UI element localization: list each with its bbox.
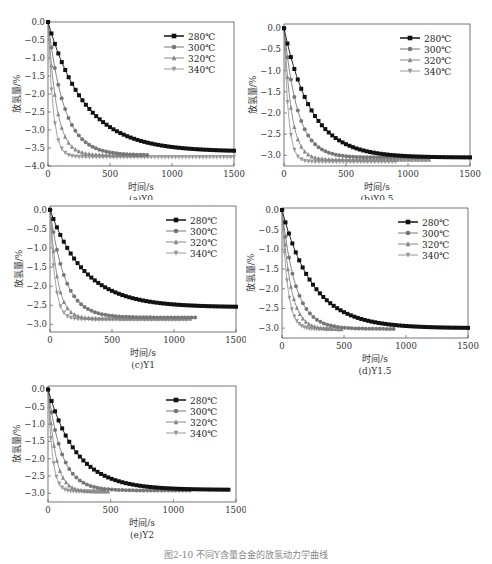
y-tick-label: 0.0 bbox=[31, 17, 45, 27]
legend-label: 300℃ bbox=[190, 407, 217, 417]
legend-label: 300℃ bbox=[422, 229, 449, 239]
x-tick-label: 500 bbox=[103, 505, 119, 515]
x-tick-label: 1000 bbox=[163, 505, 185, 515]
y-tick-label: −1.0 bbox=[26, 243, 47, 253]
y-tick-label: −2.0 bbox=[258, 284, 279, 294]
y-tick-label: −2.5 bbox=[258, 303, 279, 313]
y-tick-label: −2.5 bbox=[24, 107, 45, 117]
x-axis-label: 时间/s bbox=[130, 347, 156, 358]
x-tick-label: 1000 bbox=[161, 169, 183, 179]
y-tick-label: −1.5 bbox=[258, 264, 279, 274]
x-tick-label: 1500 bbox=[225, 335, 246, 345]
y-tick-label: −4.0 bbox=[24, 161, 45, 171]
panel-title: (d)Y1.5 bbox=[358, 366, 391, 376]
legend: 280℃300℃320℃340℃ bbox=[164, 32, 215, 75]
legend-label: 320℃ bbox=[422, 240, 449, 250]
x-tick-label: 1000 bbox=[397, 169, 419, 179]
x-tick-label: 0 bbox=[47, 335, 52, 345]
chart-panel-a: 0.0−0.5−1.0−1.5−2.0−2.5−3.0−3.5−4.005001… bbox=[0, 0, 246, 200]
y-tick-label: −1.5 bbox=[260, 87, 281, 97]
y-tick-label: −3.0 bbox=[260, 150, 281, 160]
y-tick-label: −2.5 bbox=[260, 129, 281, 139]
series-300℃ bbox=[280, 208, 396, 331]
legend: 280℃300℃320℃340℃ bbox=[400, 34, 451, 77]
chart-panel-b: 0.0−0.5−1.0−1.5−2.0−2.5−3.0050010001500时… bbox=[246, 0, 492, 200]
y-tick-label: −3.0 bbox=[258, 323, 279, 333]
y-tick-label: −0.5 bbox=[260, 44, 281, 54]
y-tick-label: −0.5 bbox=[24, 35, 45, 45]
legend-label: 300℃ bbox=[188, 43, 215, 53]
x-tick-label: 500 bbox=[336, 341, 352, 351]
x-tick-label: 500 bbox=[338, 169, 354, 179]
legend-label: 280℃ bbox=[190, 396, 217, 406]
series-320℃ bbox=[280, 207, 344, 331]
series-320℃ bbox=[282, 26, 431, 162]
legend-label: 280℃ bbox=[188, 32, 215, 42]
x-tick-label: 1000 bbox=[395, 341, 417, 351]
x-axis-label: 时间/s bbox=[128, 181, 154, 192]
y-tick-label: 0.0 bbox=[33, 205, 47, 215]
y-tick-label: −1.5 bbox=[26, 262, 47, 272]
chart-panel-d: 0.0−0.5−1.0−1.5−2.0−2.5−3.0050010001500时… bbox=[246, 200, 492, 390]
series-320℃ bbox=[46, 20, 149, 158]
y-tick-label: −1.5 bbox=[24, 436, 45, 446]
y-tick-label: −2.0 bbox=[260, 108, 281, 118]
y-axis-label: 放氢量/% bbox=[11, 74, 22, 113]
x-tick-label: 0 bbox=[281, 169, 286, 179]
y-tick-label: 0.0 bbox=[265, 205, 279, 215]
legend-label: 320℃ bbox=[188, 54, 215, 64]
legend-label: 280℃ bbox=[422, 218, 449, 228]
y-tick-label: −0.5 bbox=[258, 225, 279, 235]
y-axis-label: 放氢量/% bbox=[11, 424, 22, 463]
legend-label: 320℃ bbox=[190, 238, 217, 248]
y-tick-label: −2.0 bbox=[26, 281, 47, 291]
x-tick-label: 1500 bbox=[459, 169, 481, 179]
y-tick-label: −1.5 bbox=[24, 71, 45, 81]
x-tick-label: 500 bbox=[102, 169, 118, 179]
y-tick-label: −1.0 bbox=[24, 53, 45, 63]
y-tick-label: −1.0 bbox=[260, 66, 281, 76]
y-tick-label: 0.0 bbox=[267, 23, 281, 33]
x-tick-label: 1500 bbox=[223, 169, 245, 179]
y-tick-label: −2.5 bbox=[24, 471, 45, 481]
y-tick-label: −2.0 bbox=[24, 89, 45, 99]
y-tick-label: −2.5 bbox=[26, 300, 47, 310]
legend-label: 320℃ bbox=[424, 56, 451, 66]
plot-frame bbox=[282, 208, 468, 338]
x-tick-label: 1000 bbox=[163, 335, 185, 345]
y-tick-label: −0.5 bbox=[26, 224, 47, 234]
legend-label: 320℃ bbox=[190, 418, 217, 428]
chart-panel-c: 0.0−0.5−1.0−1.5−2.0−2.5−3.0050010001500时… bbox=[0, 200, 246, 390]
legend-label: 340℃ bbox=[190, 429, 217, 439]
y-tick-label: −1.0 bbox=[258, 244, 279, 254]
legend-label: 340℃ bbox=[422, 251, 449, 261]
legend: 280℃300℃320℃340℃ bbox=[166, 396, 217, 439]
x-axis-label: 时间/s bbox=[129, 517, 155, 528]
legend-label: 280℃ bbox=[190, 216, 217, 226]
chart-panel-e: 0.0−0.5−1.0−1.5−2.0−2.5−3.0050010001500时… bbox=[0, 380, 246, 548]
y-axis-label: 放氢量/% bbox=[247, 75, 258, 114]
legend-label: 300℃ bbox=[424, 45, 451, 55]
y-tick-label: −1.0 bbox=[24, 419, 45, 429]
y-tick-label: −2.0 bbox=[24, 454, 45, 464]
x-axis-label: 时间/s bbox=[362, 353, 388, 364]
legend-label: 340℃ bbox=[424, 67, 451, 77]
y-axis-label: 放氢量/% bbox=[13, 249, 24, 288]
legend-label: 340℃ bbox=[188, 65, 215, 75]
x-tick-label: 0 bbox=[279, 341, 284, 351]
figure-caption: 图2-10 不同Y含量合金的放氢动力学曲线 bbox=[0, 548, 492, 561]
legend-label: 300℃ bbox=[190, 227, 217, 237]
y-tick-label: 0.0 bbox=[31, 384, 45, 394]
x-tick-label: 1500 bbox=[225, 505, 246, 515]
x-tick-label: 500 bbox=[104, 335, 120, 345]
legend: 280℃300℃320℃340℃ bbox=[166, 216, 217, 259]
series-300℃ bbox=[282, 26, 431, 159]
x-tick-label: 0 bbox=[45, 505, 50, 515]
panel-title: (e)Y2 bbox=[130, 530, 154, 540]
series-300℃ bbox=[46, 20, 149, 157]
y-tick-label: −3.0 bbox=[26, 319, 47, 329]
y-tick-label: −3.0 bbox=[24, 488, 45, 498]
y-tick-label: −3.5 bbox=[24, 143, 45, 153]
x-tick-label: 0 bbox=[45, 169, 50, 179]
x-tick-label: 1500 bbox=[457, 341, 479, 351]
